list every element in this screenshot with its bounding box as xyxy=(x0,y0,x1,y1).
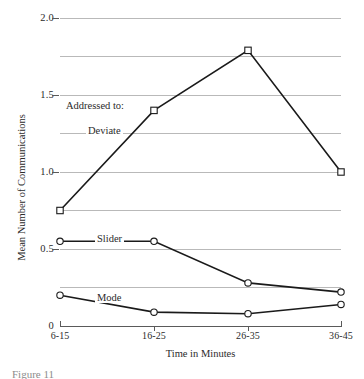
gridline-1-00 xyxy=(60,172,341,173)
x-tick-label-2: 26-35 xyxy=(221,330,275,341)
series-label-slider: Slider xyxy=(95,233,124,244)
gridline-2-00 xyxy=(60,18,341,19)
gridline-0-50 xyxy=(60,249,341,250)
y-tick-label-2-0: 2.0 xyxy=(20,13,54,24)
figure-caption: Figure 11 xyxy=(12,368,54,379)
gridline-1-50 xyxy=(60,95,341,96)
x-tick-label-3: 36-45 xyxy=(314,330,364,341)
data-point-slider-6-15 xyxy=(57,238,63,244)
data-point-slider-16-25 xyxy=(151,238,157,244)
y-tick-dash-1-0 xyxy=(52,172,59,173)
data-point-deviate-16-25 xyxy=(151,107,157,113)
data-point-mode-16-25 xyxy=(151,309,157,315)
y-tick-dash-0-5 xyxy=(52,249,59,250)
x-axis-line xyxy=(60,326,341,327)
gridline-0-75 xyxy=(60,210,341,211)
annotation-addressed-to: Addressed to: xyxy=(64,100,126,111)
x-axis-cap-right xyxy=(341,321,342,327)
x-axis-cap-left xyxy=(60,321,61,327)
gridline-1-75 xyxy=(60,56,341,57)
y-axis-title: Mean Number of Communications xyxy=(16,88,27,288)
gridline-0-25 xyxy=(60,287,341,288)
data-point-mode-26-35 xyxy=(245,310,251,316)
y-tick-dash-2-0 xyxy=(52,18,59,19)
data-point-mode-6-15 xyxy=(57,292,63,298)
x-tick-label-0: 6-15 xyxy=(33,330,87,341)
x-tick-label-1: 16-25 xyxy=(127,330,181,341)
data-point-mode-36-45 xyxy=(338,301,344,307)
series-label-deviate: Deviate xyxy=(86,125,123,136)
series-label-mode: Mode xyxy=(95,292,124,303)
data-point-deviate-26-35 xyxy=(245,47,251,53)
data-point-slider-36-45 xyxy=(338,289,344,295)
x-axis-title: Time in Minutes xyxy=(60,348,341,359)
figure-container: 2.0 1.5 1.0 0.5 0 6-15 16-25 26-35 36-45… xyxy=(0,0,364,379)
y-tick-dash-1-5 xyxy=(52,95,59,96)
data-point-slider-26-35 xyxy=(245,280,251,286)
